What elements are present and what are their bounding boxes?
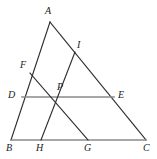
geometry-canvas: [0, 0, 157, 159]
point-label-D: D: [8, 90, 15, 100]
segment-IH: [41, 52, 75, 140]
point-label-P: P: [57, 82, 63, 92]
segment-AB: [11, 22, 50, 140]
point-label-G: G: [84, 143, 91, 153]
geometry-figure: ABCDEFGHIP: [0, 0, 157, 159]
point-label-C: C: [143, 143, 150, 153]
point-label-F: F: [20, 60, 26, 70]
point-label-E: E: [118, 90, 124, 100]
point-label-B: B: [6, 143, 12, 153]
point-label-I: I: [77, 40, 80, 50]
point-label-H: H: [36, 143, 43, 153]
point-label-A: A: [45, 6, 51, 16]
segment-AC: [50, 22, 146, 140]
